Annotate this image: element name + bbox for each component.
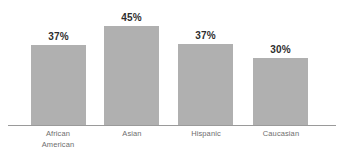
bar-group-african-american: 37% bbox=[31, 0, 86, 126]
x-axis-category-labels: African American Asian Hispanic Caucasia… bbox=[0, 128, 343, 154]
category-label-line-2: American bbox=[15, 139, 101, 150]
bar-asian[interactable] bbox=[104, 26, 159, 126]
bar-caucasian[interactable] bbox=[253, 58, 308, 126]
x-axis-line bbox=[8, 125, 336, 126]
plot-area: 37% 45% 37% 30% bbox=[0, 0, 343, 126]
bar-group-asian: 45% bbox=[104, 0, 159, 126]
bar-value-label: 37% bbox=[21, 31, 96, 42]
category-label-line-1: Hispanic bbox=[191, 129, 221, 138]
category-label-line-1: Asian bbox=[122, 129, 141, 138]
bar-group-hispanic: 37% bbox=[178, 0, 233, 126]
bar-group-caucasian: 30% bbox=[253, 0, 308, 126]
category-label-caucasian: Caucasian bbox=[238, 128, 324, 139]
bar-hispanic[interactable] bbox=[178, 44, 233, 126]
bar-value-label: 45% bbox=[94, 12, 169, 23]
bar-value-label: 30% bbox=[243, 44, 318, 55]
category-label-line-1: African bbox=[46, 129, 70, 138]
bar-value-label: 37% bbox=[168, 30, 243, 41]
category-label-hispanic: Hispanic bbox=[163, 128, 249, 139]
bar-chart: 37% 45% 37% 30% African American Asian H… bbox=[0, 0, 343, 154]
category-label-line-1: Caucasian bbox=[263, 129, 299, 138]
bar-african-american[interactable] bbox=[31, 45, 86, 126]
